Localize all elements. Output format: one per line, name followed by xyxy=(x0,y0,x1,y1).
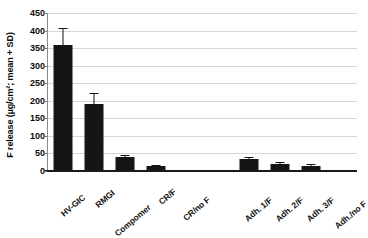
bar-group xyxy=(78,13,109,171)
bar-group xyxy=(326,13,357,171)
y-axis-tick-label: 200 xyxy=(18,96,45,105)
error-bar xyxy=(310,165,311,166)
error-bar-cap xyxy=(306,164,315,165)
y-axis-tick-label: 0 xyxy=(18,167,45,176)
y-axis-tick-mark xyxy=(44,153,47,154)
bar-group xyxy=(264,13,295,171)
x-axis-tick-label: Adh. 3/F xyxy=(304,195,336,224)
error-bar xyxy=(155,166,156,167)
y-axis-tick-label: 350 xyxy=(18,44,45,53)
y-axis-tick-mark xyxy=(44,118,47,119)
y-axis-tick-mark xyxy=(44,66,47,67)
plot-area xyxy=(47,13,357,171)
x-axis-tick-label: Adh. 2/F xyxy=(273,195,305,224)
bar-group xyxy=(233,13,264,171)
y-axis-tick-mark xyxy=(44,171,47,172)
error-bar xyxy=(248,158,249,159)
bar-group xyxy=(171,13,202,171)
x-axis-tick-label: Adh. 1/F xyxy=(242,195,274,224)
error-bar-cap xyxy=(120,155,129,156)
y-axis-line xyxy=(47,13,48,171)
bar-group xyxy=(109,13,140,171)
error-bar-cap xyxy=(58,28,67,29)
y-axis-tick-mark xyxy=(44,101,47,102)
x-axis-tick-label: CR/F xyxy=(156,186,177,206)
bar[interactable] xyxy=(84,104,103,171)
y-axis-tick-label: 250 xyxy=(18,79,45,88)
y-axis-tick-mark xyxy=(44,13,47,14)
error-bar-cap xyxy=(151,165,160,166)
error-bar-cap xyxy=(244,157,253,158)
bar-group xyxy=(140,13,171,171)
error-bar xyxy=(124,156,125,157)
y-axis-tick-label: 50 xyxy=(18,149,45,158)
y-axis-tick-label: 100 xyxy=(18,131,45,140)
x-axis-tick-labels: HV-GICRMGICompomerCR/FCR/no FAdh. 1/FAdh… xyxy=(47,172,357,223)
bar[interactable] xyxy=(115,157,134,171)
x-axis-tick-label: RMGI xyxy=(93,188,116,210)
error-bar xyxy=(279,163,280,164)
bar-group xyxy=(295,13,326,171)
bar[interactable] xyxy=(53,45,72,171)
y-axis-tick-labels: 450400350300250200150100500 xyxy=(18,13,45,171)
y-axis-tick-mark xyxy=(44,48,47,49)
y-axis-tick-mark xyxy=(44,31,47,32)
error-bar-cap xyxy=(89,93,98,94)
y-axis-tick-label: 450 xyxy=(18,9,45,18)
x-axis-tick-label: Adh./no F xyxy=(332,199,368,231)
y-axis-tick-label: 400 xyxy=(18,26,45,35)
y-axis-title: F release (µg/cm²; mean + SD) xyxy=(0,0,20,190)
error-bar xyxy=(93,94,94,104)
x-axis-tick-label: CR/no F xyxy=(181,194,212,222)
error-bar-cap xyxy=(275,162,284,163)
x-axis-tick-label: HV-GIC xyxy=(58,192,86,218)
x-axis-tick-label: Compomer xyxy=(112,202,152,238)
y-axis-title-label: F release (µg/cm²; mean + SD) xyxy=(5,32,15,158)
y-axis-tick-mark xyxy=(44,83,47,84)
y-axis-tick-label: 150 xyxy=(18,114,45,123)
error-bar xyxy=(62,29,63,45)
bar-group xyxy=(47,13,78,171)
y-axis-tick-label: 300 xyxy=(18,61,45,70)
y-axis-tick-mark xyxy=(44,136,47,137)
